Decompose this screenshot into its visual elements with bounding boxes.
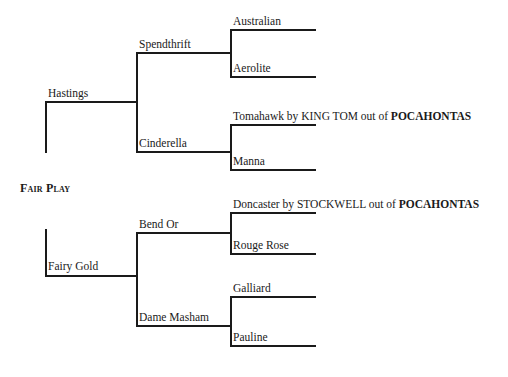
connector-line (230, 169, 316, 171)
ancestor-name: Galliard (233, 282, 271, 295)
ancestor-name: Australian (233, 15, 281, 28)
ancestor-name: Manna (233, 155, 265, 168)
connector-line (230, 124, 232, 171)
paternal-granddam-name: Cinderella (139, 137, 187, 150)
dam-name: Fairy Gold (48, 260, 98, 273)
connector-line (230, 124, 316, 126)
connector-line (45, 101, 47, 153)
connector-line (230, 296, 316, 298)
connector-line (230, 345, 316, 347)
subject-horse-name: Fair Play (20, 181, 70, 196)
connector-line (230, 212, 316, 214)
connector-line (136, 325, 231, 327)
ancestor-name-with-lineage: Tomahawk by KING TOM out of POCAHONTAS (233, 110, 471, 123)
connector-line (136, 232, 138, 327)
connector-line (230, 212, 232, 255)
connector-line (136, 52, 138, 153)
ancestor-name: Aerolite (233, 62, 271, 75)
connector-line (45, 229, 47, 277)
maternal-grandsire-name: Bend Or (139, 218, 178, 231)
connector-line (45, 101, 138, 103)
ancestor-name-with-lineage: Doncaster by STOCKWELL out of POCAHONTAS (233, 198, 479, 211)
paternal-grandsire-name: Spendthrift (139, 38, 191, 51)
connector-line (230, 296, 232, 347)
maternal-granddam-name: Dame Masham (139, 311, 209, 324)
connector-line (230, 76, 316, 78)
connector-line (45, 275, 138, 277)
connector-line (136, 52, 231, 54)
connector-line (230, 253, 316, 255)
ancestor-name: Rouge Rose (233, 239, 289, 252)
connector-line (230, 29, 232, 78)
ancestor-name: Pauline (233, 331, 268, 344)
connector-line (136, 151, 231, 153)
connector-line (230, 29, 316, 31)
connector-line (136, 232, 231, 234)
sire-name: Hastings (48, 87, 88, 100)
